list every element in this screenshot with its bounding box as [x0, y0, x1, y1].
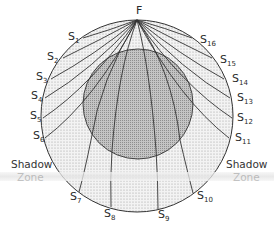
- ray-label-s9: S9: [158, 208, 169, 223]
- ray-label-s4: S4: [31, 89, 43, 104]
- ray-label-s14: S14: [232, 72, 248, 87]
- ray-label-s15: S15: [220, 53, 236, 68]
- ray-label-s1: S1: [68, 30, 79, 45]
- ray-label-s16: S16: [200, 33, 216, 48]
- scan-artifact-band: [0, 172, 274, 181]
- ray-label-s10: S10: [197, 189, 213, 204]
- ray-label-s5: S5: [30, 109, 41, 124]
- left-shadow-zone-line1: Shadow: [11, 158, 53, 170]
- focus-label: F: [136, 4, 142, 17]
- ray-label-s3: S3: [36, 70, 47, 85]
- seismic-diagram: F S1 S2 S3 S4 S5 S6 S7 S8 S9 S10 S11 S12…: [0, 0, 274, 230]
- ray-label-s13: S13: [237, 91, 253, 106]
- ray-label-s2: S2: [47, 50, 58, 65]
- ray-label-s11: S11: [235, 131, 251, 146]
- right-shadow-zone-line1: Shadow: [226, 158, 268, 170]
- earth-core: [83, 49, 193, 159]
- ray-label-s12: S12: [237, 111, 253, 126]
